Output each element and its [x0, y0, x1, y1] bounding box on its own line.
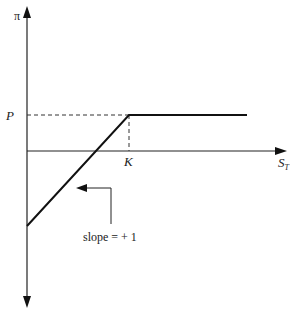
- annotation-arrow-icon: [76, 184, 87, 192]
- payoff-line: [27, 115, 247, 226]
- y-axis-label: π: [14, 9, 20, 23]
- slope-annotation: slope = + 1: [83, 230, 137, 244]
- annotation-leader-line: [84, 188, 111, 224]
- premium-label: P: [5, 108, 14, 123]
- payoff-diagram: π P K ST slope = + 1: [0, 0, 303, 321]
- x-axis-arrow-icon: [275, 147, 287, 155]
- y-axis-down-arrow-icon: [23, 296, 31, 308]
- strike-label: K: [123, 154, 134, 169]
- y-axis-up-arrow-icon: [23, 6, 31, 18]
- x-axis-label: ST: [278, 155, 290, 172]
